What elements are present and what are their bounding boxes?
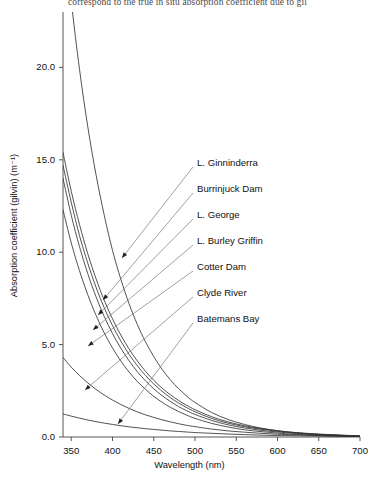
series-curve [63,358,360,437]
y-tick-label: 0.0 [15,431,55,442]
y-tick-label: 15.0 [15,154,55,165]
x-tick-label: 500 [175,445,215,456]
leader-line [93,245,193,330]
series-label: L. Ginninderra [197,157,258,168]
x-tick-label: 600 [258,445,298,456]
x-tick-label: 350 [51,445,91,456]
leader-line [98,219,193,315]
series-curve [63,414,360,437]
absorption-spectra-chart [0,0,379,484]
x-tick-label: 550 [216,445,256,456]
series-curve [63,165,360,436]
series-label: Burrinjuck Dam [197,183,263,194]
y-tick-label: 5.0 [15,339,55,350]
axis-frame [63,12,360,437]
x-tick-label: 650 [299,445,339,456]
leader-line [88,271,193,346]
x-tick-label: 400 [93,445,133,456]
leader-arrowhead [122,252,127,258]
y-tick-label: 10.0 [15,246,55,257]
series-label: L. Burley Griffin [197,235,263,246]
leader-arrowhead [118,418,123,424]
x-tick-label: 700 [340,445,379,456]
x-tick-label: 450 [134,445,174,456]
y-tick-label: 20.0 [15,61,55,72]
series-label: Batemans Bay [197,313,259,324]
leader-line [103,193,193,300]
series-label: L. George [197,209,240,220]
x-axis-title: Wavelength (nm) [0,460,379,470]
leader-arrowhead [88,341,94,346]
series-label: Cotter Dam [197,261,246,272]
leader-line [118,323,193,424]
leader-line [122,167,193,258]
series-label: Clyde River [197,287,247,298]
